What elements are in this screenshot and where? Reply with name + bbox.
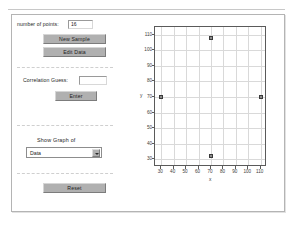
x-tick-label: 50 [183, 169, 188, 174]
panel-divider-3 [17, 173, 113, 174]
number-of-points-row: number of points: [17, 20, 115, 32]
top-divider [8, 9, 285, 10]
x-tick-label: 70 [207, 169, 212, 174]
x-tick-label: 60 [195, 169, 200, 174]
x-tick-mark [222, 166, 223, 169]
x-tick-mark [173, 166, 174, 169]
y-tick-mark [152, 112, 155, 113]
show-graph-of-label: Show Graph of [37, 137, 76, 143]
scatter-plot-area[interactable] [154, 26, 266, 166]
correlation-guess-row: Correlation Guess: [17, 76, 115, 88]
x-axis-label: x [209, 177, 211, 182]
y-tick-mark [152, 158, 155, 159]
chevron-down-icon[interactable] [92, 149, 100, 157]
y-tick-mark [152, 34, 155, 35]
x-tick-label: 90 [232, 169, 237, 174]
panel-divider-1 [17, 67, 113, 68]
correlation-guess-label: Correlation Guess: [23, 77, 68, 83]
y-axis-label: y [140, 93, 142, 98]
y-tick-mark [152, 49, 155, 50]
reset-button[interactable]: Reset [43, 183, 106, 193]
x-tick-label: 80 [220, 169, 225, 174]
new-sample-button[interactable]: New Sample [43, 34, 106, 44]
x-tick-mark [260, 166, 261, 169]
x-tick-mark [235, 166, 236, 169]
x-tick-label: 100 [243, 169, 251, 174]
gridline-vertical [236, 27, 237, 165]
chart-panel: 30405060708090100110 3040506070809010011… [118, 15, 284, 211]
y-tick-mark [152, 96, 155, 97]
number-of-points-input[interactable] [68, 20, 93, 29]
gridline-vertical [223, 27, 224, 165]
y-axis-ticks: 30405060708090100110 [118, 15, 152, 211]
correlation-guess-input[interactable] [79, 76, 107, 85]
gridline-vertical [199, 27, 200, 165]
y-tick-mark [152, 127, 155, 128]
applet-frame: number of points: New Sample Edit Data C… [11, 14, 285, 212]
x-tick-mark [185, 166, 186, 169]
graph-type-select-value: Data [30, 150, 41, 156]
y-tick-mark [152, 143, 155, 144]
data-point[interactable] [159, 95, 163, 99]
x-tick-label: 40 [170, 169, 175, 174]
gridline-vertical [211, 27, 212, 165]
control-panel: number of points: New Sample Edit Data C… [12, 15, 118, 211]
data-point[interactable] [209, 36, 213, 40]
data-point[interactable] [259, 95, 263, 99]
gridline-vertical [174, 27, 175, 165]
x-tick-mark [160, 166, 161, 169]
x-tick-label: 30 [158, 169, 163, 174]
applet-window: number of points: New Sample Edit Data C… [0, 0, 293, 226]
y-tick-mark [152, 80, 155, 81]
x-tick-label: 110 [256, 169, 263, 174]
gridline-vertical [186, 27, 187, 165]
y-tick-mark [152, 65, 155, 66]
x-tick-mark [198, 166, 199, 169]
panel-divider-2 [17, 125, 113, 126]
edit-data-button[interactable]: Edit Data [43, 47, 106, 57]
data-point[interactable] [209, 154, 213, 158]
x-tick-mark [210, 166, 211, 169]
gridline-vertical [248, 27, 249, 165]
x-tick-mark [247, 166, 248, 169]
number-of-points-label: number of points: [17, 21, 59, 27]
enter-button[interactable]: Enter [55, 91, 97, 101]
graph-type-select[interactable]: Data [26, 147, 102, 158]
